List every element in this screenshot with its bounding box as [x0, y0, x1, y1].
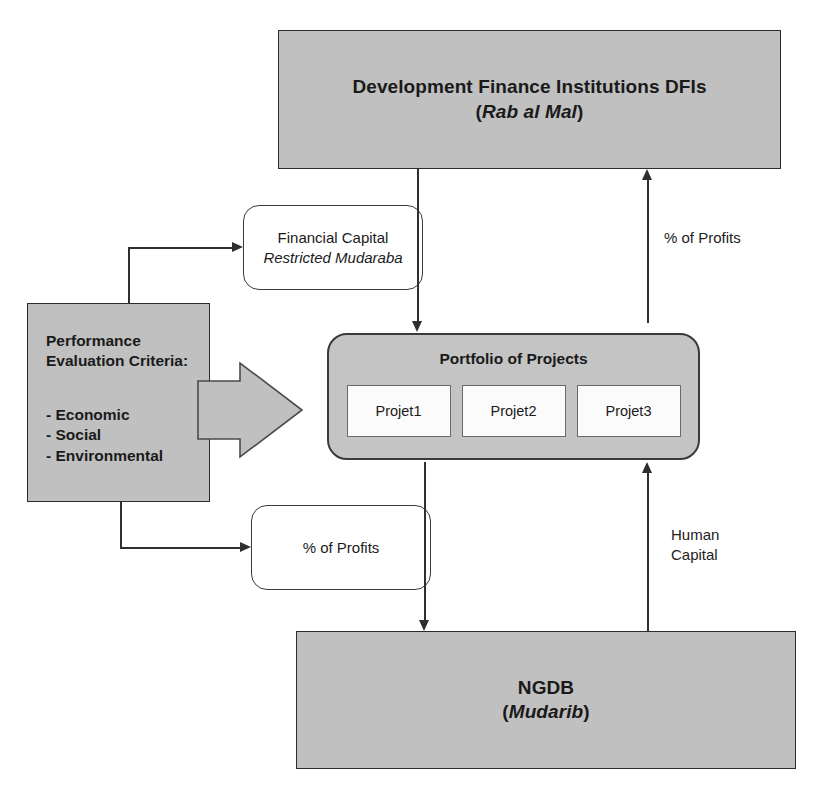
project-card: Projet2: [462, 385, 566, 437]
edge-label-human-capital: Human Capital: [671, 525, 719, 565]
edge-criteria-to-financial-capital-hline: [128, 247, 234, 249]
criteria-item: - Social: [46, 425, 163, 445]
node-financial-capital-line2: Restricted Mudaraba: [263, 248, 402, 267]
edge-portfolio-to-ngdb-arrowhead: [419, 620, 429, 631]
edge-criteria-to-portfolio-block-arrow: [196, 361, 306, 459]
edge-portfolio-to-dfi-line: [647, 180, 649, 323]
edge-criteria-to-profits-vline: [120, 501, 122, 548]
edge-criteria-to-profits-arrowhead: [240, 542, 251, 552]
node-percent-of-profits-label: % of Profits: [303, 538, 380, 557]
portfolio-title: Portfolio of Projects: [439, 349, 587, 369]
project-card: Projet1: [347, 385, 451, 437]
node-financial-capital-line1: Financial Capital: [278, 228, 389, 247]
node-performance-criteria: Performance Evaluation Criteria: - Econo…: [27, 303, 210, 502]
projects-row: Projet1 Projet2 Projet3: [347, 385, 681, 437]
criteria-title-line1: Performance: [46, 331, 188, 351]
node-ngdb-paren-close: ): [583, 701, 589, 722]
project-card: Projet3: [577, 385, 681, 437]
criteria-item: - Environmental: [46, 446, 163, 466]
node-ngdb: NGDB (Mudarib): [296, 631, 796, 769]
node-dfi-line2: (Rab al Mal): [476, 100, 584, 124]
edge-portfolio-to-dfi-arrowhead: [642, 169, 652, 180]
edge-criteria-to-financial-capital-vline: [128, 247, 130, 304]
edge-dfi-to-portfolio-line: [417, 169, 419, 323]
node-dfi-italic: Rab al Mal: [482, 101, 577, 122]
node-dfi-paren-close: ): [577, 101, 583, 122]
criteria-title: Performance Evaluation Criteria:: [46, 331, 188, 371]
edge-criteria-to-financial-capital-arrowhead: [232, 242, 243, 252]
node-ngdb-line2: (Mudarib): [502, 700, 589, 724]
criteria-list: - Economic - Social - Environmental: [46, 405, 163, 466]
diagram-canvas: Development Finance Institutions DFIs (R…: [0, 0, 819, 804]
node-financial-capital: Financial Capital Restricted Mudaraba: [243, 205, 423, 290]
node-ngdb-italic: Mudarib: [509, 701, 584, 722]
node-dfi-line1: Development Finance Institutions DFIs: [352, 75, 706, 99]
edge-label-percent-of-profits: % of Profits: [664, 228, 741, 248]
edge-ngdb-to-portfolio-line: [647, 473, 649, 631]
edge-criteria-to-profits-hline: [120, 547, 242, 549]
edge-portfolio-to-ngdb-line: [424, 462, 426, 620]
criteria-item: - Economic: [46, 405, 163, 425]
node-percent-of-profits: % of Profits: [251, 505, 431, 590]
node-ngdb-line1: NGDB: [518, 676, 574, 700]
node-dfi: Development Finance Institutions DFIs (R…: [278, 30, 781, 169]
edge-dfi-to-portfolio-arrowhead: [412, 321, 422, 332]
criteria-title-line2: Evaluation Criteria:: [46, 351, 188, 371]
node-portfolio-of-projects: Portfolio of Projects Projet1 Projet2 Pr…: [327, 333, 700, 460]
edge-ngdb-to-portfolio-arrowhead: [642, 462, 652, 473]
